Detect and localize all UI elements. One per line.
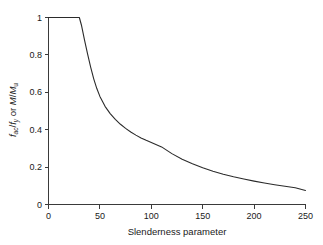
x-tick-label-3: 150 (195, 211, 210, 221)
y-tick-label-0: 0 (37, 200, 42, 210)
y-tick-label-4: 0.8 (29, 50, 42, 60)
y-tick-label-3: 0.6 (29, 87, 42, 97)
x-tick-label-2: 100 (144, 211, 159, 221)
y-axis-title-second-den-sub: u (12, 83, 19, 87)
x-tick-label-1: 50 (95, 211, 105, 221)
y-tick-label-1: 0.2 (29, 162, 42, 172)
y-axis-title: fac/fy or M/Mu (7, 83, 20, 137)
chart-figure: 0 0.2 0.4 0.6 0.8 1 0 50 100 150 200 250… (0, 0, 323, 245)
y-tick-label-5: 1 (37, 13, 42, 23)
y-axis-title-second-num: M (7, 97, 18, 105)
strength-curve (49, 18, 306, 191)
x-axis-title: Slenderness parameter (128, 226, 227, 237)
chart-plot-area: 0 0.2 0.4 0.6 0.8 1 0 50 100 150 200 250… (0, 0, 323, 245)
y-axis-ticks (45, 18, 49, 205)
y-axis-title-second-den: M (7, 87, 18, 95)
x-axis-ticks (49, 205, 306, 209)
x-tick-label-0: 0 (46, 211, 51, 221)
svg-text:fac/fy or M/Mu: fac/fy or M/Mu (7, 83, 20, 137)
x-tick-label-5: 250 (298, 211, 313, 221)
y-axis-title-conjunction: or (7, 105, 18, 119)
x-tick-label-4: 200 (247, 211, 262, 221)
y-tick-label-2: 0.4 (29, 125, 42, 135)
